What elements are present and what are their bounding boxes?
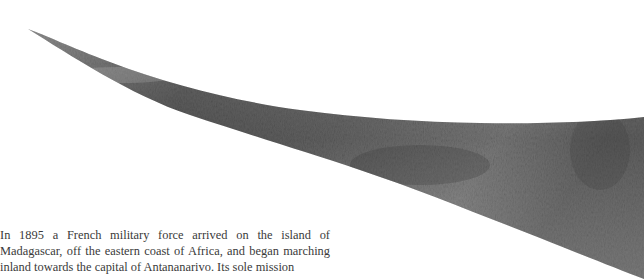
article-paragraph: In 1895 a French military force arrived … <box>0 227 330 275</box>
